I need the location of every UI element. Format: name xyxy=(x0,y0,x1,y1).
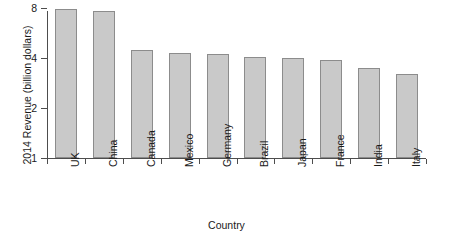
x-tick-mark xyxy=(123,159,124,164)
x-tick-label: India xyxy=(373,144,384,167)
y-tick-mark xyxy=(41,108,47,109)
y-tick-label: 8 xyxy=(6,2,40,14)
x-tick-mark xyxy=(274,159,275,164)
x-tick-mark xyxy=(161,159,162,164)
y-tick-label: 4 xyxy=(6,52,40,64)
y-tick-mark xyxy=(41,8,47,9)
y-axis-title: 2014 Revenue (billion dollars) xyxy=(18,15,36,175)
x-tick-label: Italy xyxy=(411,148,422,167)
y-tick-label: 1 xyxy=(6,152,40,164)
bar xyxy=(396,74,418,158)
x-axis-title: Country xyxy=(0,219,453,231)
y-tick-mark xyxy=(41,58,47,59)
x-tick-label: Japan xyxy=(297,138,308,167)
x-tick-mark xyxy=(85,159,86,164)
x-tick-mark xyxy=(199,159,200,164)
x-tick-label: UK xyxy=(70,152,81,167)
x-tick-label: China xyxy=(108,140,119,167)
y-tick-label: 2 xyxy=(6,102,40,114)
x-tick-label: Mexico xyxy=(184,134,195,167)
x-tick-mark xyxy=(426,159,427,164)
y-tick-label-wrap: 8 xyxy=(0,8,40,9)
bar xyxy=(93,11,115,158)
x-tick-mark xyxy=(312,159,313,164)
bar xyxy=(55,9,77,158)
x-tick-mark xyxy=(237,159,238,164)
bar-chart-figure: 2014 Revenue (billion dollars) 8421 UKCh… xyxy=(0,0,453,242)
x-tick-label: Germany xyxy=(222,124,233,167)
x-tick-label: Canada xyxy=(146,130,157,167)
x-tick-mark xyxy=(47,159,48,164)
y-axis-line xyxy=(47,11,48,159)
y-tick-label-wrap: 1 xyxy=(0,158,40,159)
y-tick-label-wrap: 4 xyxy=(0,58,40,59)
x-tick-mark xyxy=(388,159,389,164)
x-tick-label: Brazil xyxy=(259,141,270,167)
x-tick-label: France xyxy=(335,134,346,167)
y-tick-label-wrap: 2 xyxy=(0,108,40,109)
x-tick-mark xyxy=(350,159,351,164)
